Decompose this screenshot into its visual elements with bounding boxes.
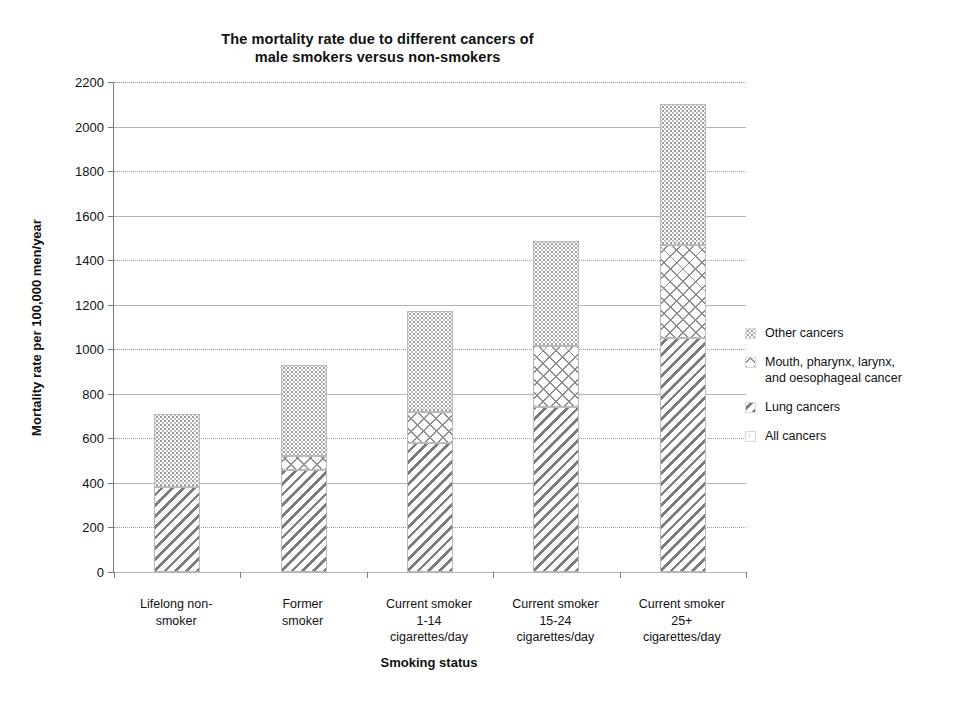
- x-category-label: Current smoker 25+ cigarettes/day: [618, 596, 746, 646]
- y-tick-label: 1600: [75, 208, 104, 223]
- gridline: [114, 260, 746, 261]
- legend-label: Lung cancers: [765, 399, 840, 415]
- legend-swatch-icon: [745, 328, 756, 339]
- bar-segment[interactable]: [660, 245, 706, 339]
- x-category-label: Current smoker 15-24 cigarettes/day: [491, 596, 619, 646]
- bar-segment[interactable]: [281, 365, 327, 456]
- y-tick-mark: [108, 438, 114, 439]
- bar-segment[interactable]: [407, 311, 453, 411]
- legend-item[interactable]: All cancers: [745, 428, 970, 444]
- gridline: [114, 127, 746, 128]
- legend-label: All cancers: [765, 428, 826, 444]
- y-tick-mark: [108, 171, 114, 172]
- bar-segment[interactable]: [660, 338, 706, 572]
- y-tick-label: 1200: [75, 297, 104, 312]
- legend-swatch-icon: [745, 431, 756, 442]
- chart-legend: Other cancersMouth, pharynx, larynx, and…: [745, 325, 970, 457]
- bar-segment[interactable]: [533, 241, 579, 346]
- y-tick-mark: [108, 527, 114, 528]
- chart-root: The mortality rate due to different canc…: [0, 0, 975, 717]
- bar-segment[interactable]: [660, 104, 706, 244]
- bar-segment[interactable]: [281, 470, 327, 572]
- x-tick-mark: [240, 572, 241, 578]
- y-tick-label: 0: [97, 565, 104, 580]
- y-tick-mark: [108, 127, 114, 128]
- bar-segment[interactable]: [407, 412, 453, 443]
- x-tick-mark: [367, 572, 368, 578]
- x-category-label: Current smoker 1-14 cigarettes/day: [365, 596, 493, 646]
- bar-segment[interactable]: [154, 487, 200, 572]
- x-tick-mark: [493, 572, 494, 578]
- x-axis-title: Smoking status: [113, 655, 745, 670]
- gridline: [114, 82, 746, 83]
- legend-swatch-icon: [745, 357, 756, 368]
- legend-item[interactable]: Lung cancers: [745, 399, 970, 415]
- y-tick-mark: [108, 394, 114, 395]
- x-category-label: Former smoker: [239, 596, 367, 629]
- bar-segment[interactable]: [281, 456, 327, 469]
- y-tick-label: 400: [82, 475, 104, 490]
- y-tick-label: 1800: [75, 164, 104, 179]
- legend-item[interactable]: Other cancers: [745, 325, 970, 341]
- y-tick-label: 800: [82, 386, 104, 401]
- plot-area: 0200400600800100012001400160018002000220…: [113, 82, 746, 573]
- y-tick-label: 200: [82, 520, 104, 535]
- gridline: [114, 572, 746, 573]
- legend-item[interactable]: Mouth, pharynx, larynx, and oesophageal …: [745, 354, 970, 386]
- bar-segment[interactable]: [533, 407, 579, 572]
- bar-stack[interactable]: [281, 365, 327, 572]
- bar-segment[interactable]: [533, 346, 579, 407]
- legend-label: Mouth, pharynx, larynx, and oesophageal …: [765, 354, 902, 386]
- bar-stack[interactable]: [660, 104, 706, 572]
- y-tick-mark: [108, 216, 114, 217]
- y-axis-title: Mortality rate per 100,000 men/year: [26, 82, 46, 572]
- x-tick-mark: [114, 572, 115, 578]
- gridline: [114, 305, 746, 306]
- bar-stack[interactable]: [533, 241, 579, 572]
- bar-segment[interactable]: [154, 414, 200, 488]
- y-tick-mark: [108, 305, 114, 306]
- y-tick-label: 2200: [75, 75, 104, 90]
- y-axis-title-text: Mortality rate per 100,000 men/year: [29, 219, 44, 436]
- gridline: [114, 216, 746, 217]
- y-tick-mark: [108, 260, 114, 261]
- y-tick-label: 1000: [75, 342, 104, 357]
- gridline: [114, 171, 746, 172]
- x-category-label: Lifelong non- smoker: [112, 596, 240, 629]
- bar-stack[interactable]: [154, 414, 200, 572]
- bar-stack[interactable]: [407, 311, 453, 572]
- y-tick-label: 1400: [75, 253, 104, 268]
- y-tick-mark: [108, 349, 114, 350]
- y-tick-label: 600: [82, 431, 104, 446]
- y-tick-mark: [108, 483, 114, 484]
- chart-title: The mortality rate due to different canc…: [0, 30, 755, 66]
- y-tick-mark: [108, 82, 114, 83]
- x-tick-mark: [620, 572, 621, 578]
- bar-segment[interactable]: [407, 443, 453, 572]
- legend-label: Other cancers: [765, 325, 844, 341]
- legend-swatch-icon: [745, 402, 756, 413]
- y-tick-label: 2000: [75, 119, 104, 134]
- x-tick-mark: [746, 572, 747, 578]
